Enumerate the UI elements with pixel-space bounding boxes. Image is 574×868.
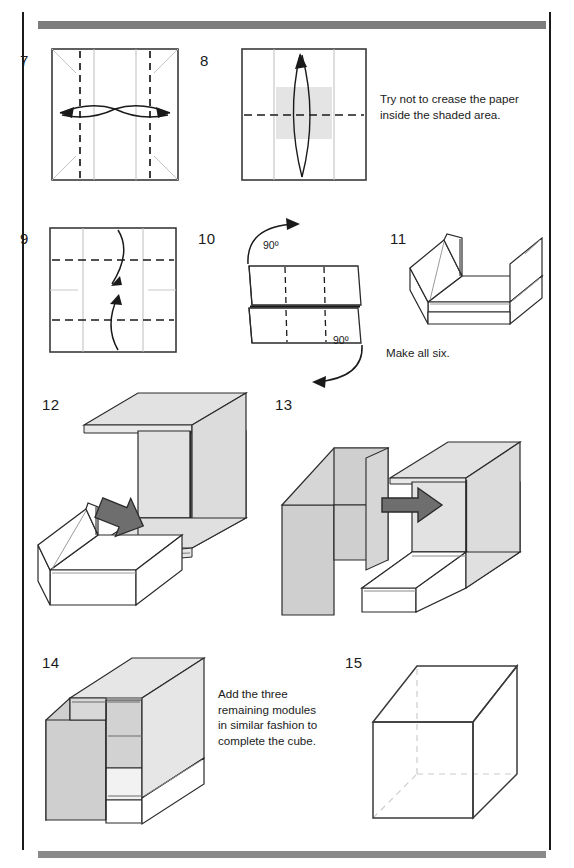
step-diagram-15 [345,648,535,828]
instruction-page: 7 8 [0,0,574,868]
angle-label-top: 90º [263,238,279,254]
step-diagram-10 [232,218,378,358]
note-step-14: Add the three remaining modules in simil… [218,686,326,748]
page-rule-left [22,12,24,850]
angle-label-bottom: 90º [333,333,349,349]
step-number-9: 9 [20,231,29,246]
note-step-11: Make all six. [386,345,450,361]
step-diagram-11 [400,224,550,342]
step-diagram-14 [38,648,238,826]
header-bar [38,21,546,29]
step-diagram-12 [40,385,270,620]
step-diagram-13 [270,410,555,622]
footer-bar [38,851,546,858]
note-step-8: Try not to crease the paper inside the s… [380,91,550,122]
step-number-7: 7 [20,53,29,68]
step-diagram-9 [48,226,178,354]
step-number-10: 10 [198,231,216,246]
step-diagram-8 [240,47,368,182]
step-diagram-7 [50,47,180,182]
step-number-8: 8 [200,53,209,68]
